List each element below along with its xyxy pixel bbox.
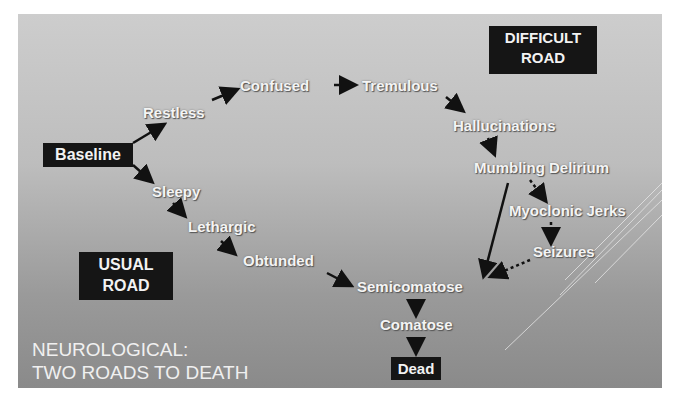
arrow-mumbling-semicomatose [484,183,508,275]
arrow-lethargic-obtunded [221,241,234,253]
arrow-hallucinations-mumbling [488,138,494,153]
node-lethargic: Lethargic [188,218,256,235]
node-hallucinations: Hallucinations [453,117,556,134]
arrow-restless-confused [212,90,236,100]
node-dead: Dead [391,357,441,380]
node-myoclonic-jerks: Myoclonic Jerks [509,202,626,219]
node-confused: Confused [240,77,309,94]
usual-road-label: USUAL ROAD [79,252,173,300]
node-mumbling-delirium: Mumbling Delirium [474,159,609,176]
arrow-obtunded-semicomatose [327,273,350,285]
arrow-mumbling-myoclonic [530,180,545,200]
node-baseline: Baseline [43,143,133,167]
node-semicomatose: Semicomatose [357,278,463,295]
difficult-road-label: DIFFICULT ROAD [489,26,597,74]
node-tremulous: Tremulous [362,77,438,94]
arrow-baseline-restless [133,125,163,143]
node-comatose: Comatose [380,316,453,333]
arrow-seizures-semicomatose [492,260,530,276]
arrow-sleepy-lethargic [173,203,184,215]
slide-title: NEUROLOGICAL: TWO ROADS TO DEATH [32,338,248,384]
node-seizures: Seizures [533,243,595,260]
node-obtunded: Obtunded [243,252,314,269]
arrow-tremulous-hallucinations [446,97,462,110]
node-sleepy: Sleepy [152,183,200,200]
arrow-baseline-sleepy [133,165,151,181]
node-restless: Restless [143,104,205,121]
